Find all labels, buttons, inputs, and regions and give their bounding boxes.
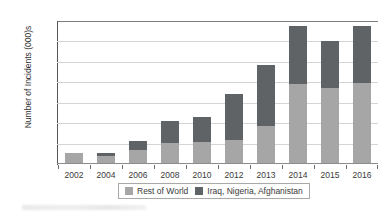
stacked-bar[interactable] bbox=[353, 26, 371, 163]
x-tick-mark bbox=[58, 165, 59, 169]
x-tick-mark bbox=[154, 165, 155, 169]
legend-swatch-rest-of-world bbox=[125, 187, 133, 195]
bar-slot bbox=[90, 21, 122, 163]
legend-label-rest-of-world: Rest of World bbox=[137, 186, 188, 196]
bar-slot bbox=[250, 21, 282, 163]
legend-label-iraq-nigeria-afghanistan: Iraq, Nigeria, Afghanistan bbox=[207, 186, 302, 196]
stacked-bar[interactable] bbox=[161, 121, 179, 163]
x-tick-mark bbox=[377, 165, 378, 169]
chart-legend: Rest of World Iraq, Nigeria, Afghanistan bbox=[118, 183, 310, 199]
x-tick-mark bbox=[122, 165, 123, 169]
x-tick-mark bbox=[314, 165, 315, 169]
illegible-caption bbox=[22, 205, 146, 210]
stacked-bar[interactable] bbox=[321, 41, 339, 163]
x-tick-label: 2012 bbox=[218, 165, 250, 181]
bar-slot bbox=[122, 21, 154, 163]
stacked-bar[interactable] bbox=[289, 26, 307, 163]
stacked-bar-chart: Number of Incidents (000)s 0200040006000… bbox=[0, 0, 388, 216]
bar-slot bbox=[346, 21, 378, 163]
x-tick-label: 2016 bbox=[346, 165, 378, 181]
stacked-bar[interactable] bbox=[257, 65, 275, 163]
bar-segment-iraq-nigeria-afghanistan bbox=[257, 65, 275, 126]
bar-segment-iraq-nigeria-afghanistan bbox=[193, 117, 211, 142]
bar-segment-rest-of-world bbox=[193, 142, 211, 163]
legend-swatch-iraq-nigeria-afghanistan bbox=[195, 187, 203, 195]
bar-segment-rest-of-world bbox=[129, 150, 147, 163]
bar-segment-rest-of-world bbox=[65, 153, 83, 163]
bar-segment-iraq-nigeria-afghanistan bbox=[161, 121, 179, 142]
x-tick-label: 2014 bbox=[282, 165, 314, 181]
x-tick-mark bbox=[346, 165, 347, 169]
bar-slot bbox=[58, 21, 90, 163]
bar-segment-iraq-nigeria-afghanistan bbox=[289, 26, 307, 84]
x-tick-mark bbox=[186, 165, 187, 169]
bar-segment-iraq-nigeria-afghanistan bbox=[321, 41, 339, 88]
bar-segment-iraq-nigeria-afghanistan bbox=[353, 26, 371, 83]
x-tick-mark bbox=[90, 165, 91, 169]
stacked-bar[interactable] bbox=[65, 153, 83, 163]
plot-area bbox=[57, 21, 378, 164]
x-tick-mark bbox=[218, 165, 219, 169]
bar-segment-rest-of-world bbox=[289, 84, 307, 163]
x-axis-tick-labels: 2002200420062008201020122013201420152016 bbox=[58, 165, 378, 181]
bar-slot bbox=[186, 21, 218, 163]
bar-segment-rest-of-world bbox=[161, 143, 179, 163]
x-axis-baseline bbox=[57, 163, 378, 164]
legend-item-rest-of-world: Rest of World bbox=[125, 186, 188, 196]
x-tick-label: 2006 bbox=[122, 165, 154, 181]
stacked-bar[interactable] bbox=[97, 153, 115, 163]
x-tick-label: 2013 bbox=[250, 165, 282, 181]
stacked-bar[interactable] bbox=[193, 117, 211, 163]
x-tick-label: 2004 bbox=[90, 165, 122, 181]
stacked-bar[interactable] bbox=[129, 141, 147, 163]
x-tick-mark bbox=[282, 165, 283, 169]
bar-group bbox=[58, 21, 378, 163]
bar-segment-rest-of-world bbox=[225, 140, 243, 163]
stacked-bar[interactable] bbox=[225, 94, 243, 163]
x-tick-label: 2008 bbox=[154, 165, 186, 181]
x-tick-mark bbox=[250, 165, 251, 169]
x-tick-label: 2015 bbox=[314, 165, 346, 181]
bar-slot bbox=[154, 21, 186, 163]
x-tick-label: 2002 bbox=[58, 165, 90, 181]
x-tick-label: 2010 bbox=[186, 165, 218, 181]
bar-slot bbox=[282, 21, 314, 163]
bar-segment-iraq-nigeria-afghanistan bbox=[225, 94, 243, 140]
bar-segment-iraq-nigeria-afghanistan bbox=[129, 141, 147, 150]
legend-item-iraq-nigeria-afghanistan: Iraq, Nigeria, Afghanistan bbox=[195, 186, 302, 196]
bar-segment-rest-of-world bbox=[97, 156, 115, 163]
bar-slot bbox=[218, 21, 250, 163]
bar-slot bbox=[314, 21, 346, 163]
bar-segment-rest-of-world bbox=[321, 88, 339, 163]
y-axis-title: Number of Incidents (000)s bbox=[23, 0, 33, 157]
bar-segment-rest-of-world bbox=[257, 126, 275, 163]
bar-segment-rest-of-world bbox=[353, 83, 371, 163]
